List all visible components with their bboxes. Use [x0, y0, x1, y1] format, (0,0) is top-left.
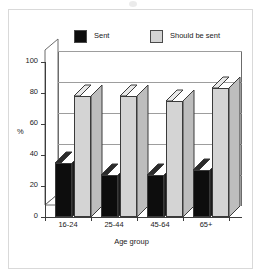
y-tick-80: 80	[41, 93, 45, 94]
x-tick-label-45-64: 45-64	[138, 221, 182, 229]
y-tick-40: 40	[41, 155, 45, 156]
bar-should-be-sent-16-24	[74, 96, 91, 217]
y-tick-label-60: 60	[30, 119, 38, 127]
y-tick-label-100: 100	[25, 57, 38, 65]
gridline-100	[58, 51, 242, 52]
y-tick-label-20: 20	[30, 181, 38, 189]
y-tick-100: 100	[41, 62, 45, 63]
bar-should-be-sent-45-64	[166, 101, 183, 217]
scan-artifact-mark	[129, 1, 137, 7]
x-tick-end	[229, 217, 230, 221]
y-tick-20: 20	[41, 186, 45, 187]
bar-sent-45-64	[147, 175, 164, 217]
y-tick-label-40: 40	[30, 150, 38, 158]
y-axis-line: 100 80 60 40 20 0	[45, 62, 46, 217]
plot-area: 100 80 60 40 20 0	[9, 10, 254, 270]
figure-frame: Sent Should be sent	[8, 9, 253, 269]
bar-should-be-sent-65-plus	[212, 88, 229, 217]
x-tick-label-25-44: 25-44	[92, 221, 136, 229]
y-tick-label-0: 0	[34, 212, 38, 220]
bar-sent-16-24	[55, 163, 72, 217]
x-tick-label-65-plus: 65+	[184, 221, 228, 229]
axis-box: 100 80 60 40 20 0	[45, 62, 242, 217]
x-axis-title: Age group	[9, 238, 254, 246]
bar-should-be-sent-25-44	[120, 96, 137, 217]
y-tick-label-80: 80	[30, 88, 38, 96]
bar-sent-25-44	[101, 175, 118, 217]
x-axis-line	[45, 217, 242, 218]
x-tick-label-16-24: 16-24	[46, 221, 90, 229]
y-axis-title: %	[17, 128, 24, 136]
bar-sent-65-plus	[193, 170, 210, 217]
chart-screenshot: Sent Should be sent	[0, 0, 261, 277]
y-tick-60: 60	[41, 124, 45, 125]
